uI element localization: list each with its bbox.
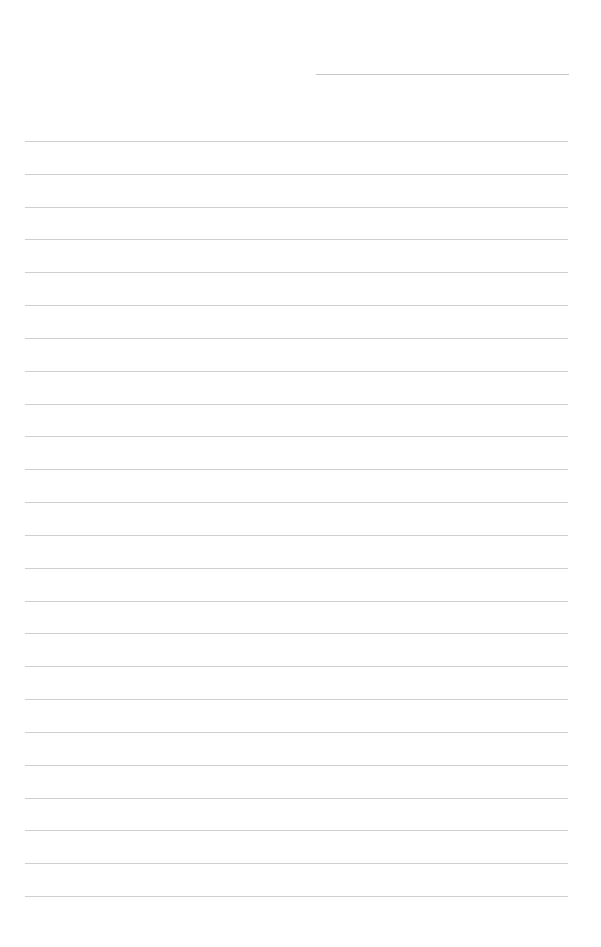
ruled-line (25, 568, 568, 569)
ruled-line (25, 666, 568, 667)
ruled-line (25, 765, 568, 766)
ruled-line (25, 535, 568, 536)
ruled-line (25, 141, 568, 142)
ruled-line (25, 174, 568, 175)
ruled-line (25, 732, 568, 733)
ruled-line (25, 798, 568, 799)
ruled-line (25, 633, 568, 634)
ruled-line (25, 338, 568, 339)
ruled-line (25, 404, 568, 405)
ruled-line (25, 863, 568, 864)
ruled-line (25, 601, 568, 602)
ruled-line (25, 371, 568, 372)
ruled-line (25, 502, 568, 503)
ruled-line (25, 699, 568, 700)
ruled-line (25, 272, 568, 273)
ruled-line (25, 469, 568, 470)
ruled-line (25, 436, 568, 437)
header-name-line (316, 74, 569, 75)
ruled-line (25, 830, 568, 831)
ruled-line (25, 207, 568, 208)
ruled-line (25, 305, 568, 306)
ruled-line (25, 239, 568, 240)
ruled-line (25, 896, 568, 897)
